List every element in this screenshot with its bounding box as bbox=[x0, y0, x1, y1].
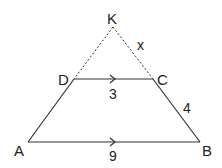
segment-AD bbox=[28, 79, 74, 142]
segment-KC-dashed bbox=[113, 27, 153, 79]
vertex-label-A: A bbox=[14, 142, 24, 159]
length-label-KC: x bbox=[137, 37, 144, 53]
trapezoid-diagram: K D C A B x 3 4 9 bbox=[0, 0, 222, 168]
vertex-label-D: D bbox=[58, 71, 69, 88]
segment-KD-dashed bbox=[74, 27, 113, 79]
segment-CB bbox=[153, 79, 200, 142]
vertex-label-K: K bbox=[107, 10, 117, 27]
vertex-label-B: B bbox=[202, 142, 212, 159]
length-label-AB: 9 bbox=[109, 148, 117, 164]
length-label-DC: 3 bbox=[109, 86, 117, 102]
vertex-label-C: C bbox=[157, 71, 168, 88]
length-label-CB: 4 bbox=[183, 100, 191, 116]
